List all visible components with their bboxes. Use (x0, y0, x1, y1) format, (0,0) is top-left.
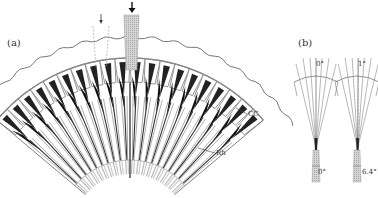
right-unit-top-angle: 1° (358, 61, 366, 68)
figure: (a) CC Rh (b) 0° 1° 0° 6.4° (0, 0, 378, 198)
basal-fiber (137, 160, 139, 174)
ommatidium-unit (7, 99, 92, 190)
small-arrow-icon (99, 20, 102, 24)
rhabdom-line (45, 126, 86, 175)
basal-fiber (122, 160, 124, 174)
rhabdom-line (146, 99, 160, 161)
ommatidium-unit (18, 89, 95, 186)
ommatidium-unit (168, 99, 253, 190)
panel-a-label: (a) (7, 38, 21, 48)
right-unit-bottom-angle: 6.4° (362, 169, 377, 176)
rhabdom-line (38, 132, 81, 179)
rhabdom-line (174, 126, 215, 175)
rhabdom-line (132, 96, 133, 160)
ray-line (352, 58, 357, 148)
basal-fiber (119, 161, 121, 175)
lens-side (294, 82, 297, 96)
large-arrow-icon (129, 8, 136, 13)
right-unit (335, 58, 378, 182)
basal-fiber (126, 160, 127, 174)
ray-line (303, 58, 316, 148)
rhabdom-line (30, 140, 77, 183)
rh-annotation: Rh (216, 150, 226, 157)
rhabdom-line (32, 138, 78, 183)
left-unit-bottom-angle: 0° (318, 169, 326, 176)
pigment-wedge (185, 91, 197, 125)
rhabdom-line (127, 96, 128, 160)
left-unit (294, 58, 338, 182)
left-unit-top-angle: 0° (316, 61, 324, 68)
panel-a-fan (0, 2, 293, 195)
shaded-beam (124, 15, 139, 70)
ray-line (316, 58, 329, 148)
panel-b-label: (b) (298, 38, 312, 48)
rhabdom-line (101, 99, 115, 161)
cc-annotation: CC (248, 111, 259, 118)
basal-fiber (134, 160, 135, 174)
rhabdom-line (183, 140, 230, 183)
basal-fiber (139, 161, 141, 175)
pigment-wedge (54, 96, 75, 126)
ray-line (358, 58, 372, 148)
panel-b-units (294, 58, 378, 182)
rhabdom-line (183, 138, 229, 183)
